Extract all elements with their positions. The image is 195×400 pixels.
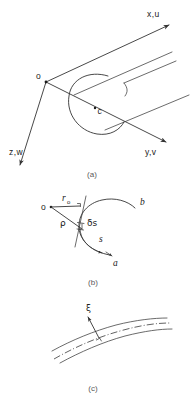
panel-b: o r o ρ δs s — [41, 193, 145, 287]
channel-upper-wall — [52, 318, 167, 351]
cylinder-ridge-line — [124, 61, 176, 83]
axis-y-v-label: y,v — [145, 147, 157, 157]
panel-a: c o x,u y,v z,w (a) — [9, 9, 189, 179]
delta-s-label: δs — [87, 218, 98, 228]
arc-s-label: s — [99, 234, 103, 244]
end-a-label: a — [113, 258, 118, 268]
caption-c: (c) — [88, 384, 98, 393]
radius-zero-subscript: o — [67, 199, 71, 205]
caption-a: (a) — [87, 170, 97, 179]
cylinder-centre-dot — [94, 107, 96, 109]
panel-c: ξ (c) — [52, 303, 172, 393]
caption-b: (b) — [88, 278, 98, 287]
origin-label-b: o — [41, 202, 46, 212]
xi-label: ξ — [86, 303, 91, 313]
axis-x-u-line — [46, 25, 169, 82]
channel-lower-wall — [60, 329, 172, 363]
cylinder-centre-label: c — [98, 106, 103, 116]
rho-segment — [51, 207, 82, 229]
origin-dot-a — [45, 81, 48, 84]
cylinder-far-cap-arc — [124, 83, 127, 96]
end-b-label: b — [140, 197, 145, 207]
xi-normal-arrow — [88, 317, 99, 338]
cylinder-upper-generator — [74, 52, 172, 95]
origin-label-a: o — [36, 71, 41, 81]
radius-zero-label: r — [62, 193, 66, 203]
delta-s-tick-upper — [78, 223, 85, 224]
axis-z-w-line — [20, 82, 46, 165]
figure-root: c o x,u y,v z,w (a) o — [0, 0, 195, 400]
axis-z-w-label: z,w — [9, 147, 23, 157]
radius-zero-segment — [51, 206, 80, 207]
rho-label: ρ — [60, 218, 66, 228]
figure-svg: c o x,u y,v z,w (a) o — [0, 0, 195, 400]
axis-x-u-label: x,u — [147, 9, 160, 19]
right-angle-mark-c — [97, 338, 102, 341]
cylinder-lower-generator — [105, 95, 189, 130]
delta-s-tick-lower — [77, 229, 84, 230]
